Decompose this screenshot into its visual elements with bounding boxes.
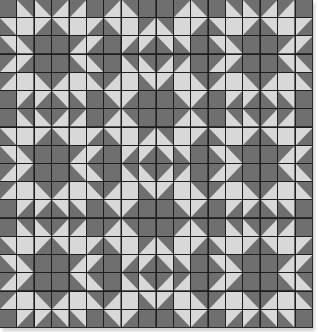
quilt-cell-diamond (157, 73, 173, 90)
quilt-cell-diamond (122, 164, 138, 181)
quilt-cell-diamond (122, 91, 138, 108)
quilt-cell-star (261, 91, 277, 108)
quilt-cell-star (243, 55, 259, 72)
quilt-cell-star (296, 91, 312, 108)
quilt-cell-star (70, 146, 86, 163)
quilt-cell-star (70, 273, 86, 290)
quilt-cell-diamond (139, 73, 155, 90)
quilt-cell-diamond (157, 146, 173, 163)
quilt-cell-diamond (139, 109, 155, 126)
quilt-cell-star (17, 91, 33, 108)
quilt-cell-star (35, 310, 51, 327)
quilt-cell-star (35, 109, 51, 126)
quilt-cell-diamond (157, 164, 173, 181)
quilt-cell-star (52, 55, 68, 72)
quilt-cell-star (243, 182, 259, 199)
quilt-cell-star (209, 146, 225, 163)
quilt-cell-star (261, 164, 277, 181)
quilt-cell-diamond (104, 146, 120, 163)
quilt-cell-star (35, 36, 51, 53)
quilt-cell-diamond (157, 310, 173, 327)
quilt-cell-diamond (104, 292, 120, 309)
quilt-cell-diamond (122, 310, 138, 327)
quilt-cell-diamond (104, 18, 120, 35)
quilt-cell-diamond (104, 219, 120, 236)
quilt-cell-star (17, 128, 33, 145)
quilt-cell-diamond (139, 55, 155, 72)
quilt-cell-diamond (122, 273, 138, 290)
quilt-cell-star (296, 237, 312, 254)
quilt-cell-star (17, 55, 33, 72)
quilt-cell-star (0, 146, 16, 163)
quilt-cell-star (35, 73, 51, 90)
quilt-cell-star (261, 18, 277, 35)
quilt-cell-diamond (191, 182, 207, 199)
quilt-cell-star (261, 219, 277, 236)
quilt-cell-star (17, 182, 33, 199)
quilt-cell-star (70, 219, 86, 236)
quilt-cell-diamond (139, 18, 155, 35)
quilt-cell-star (243, 219, 259, 236)
quilt-cell-star (87, 237, 103, 254)
quilt-cell-star (87, 310, 103, 327)
quilt-cell-diamond (191, 273, 207, 290)
quilt-cell-diamond (157, 237, 173, 254)
quilt-cell-diamond (157, 273, 173, 290)
quilt-cell-star (226, 255, 242, 272)
quilt-cell-diamond (174, 55, 190, 72)
quilt-cell-star (261, 237, 277, 254)
quilt-cell-star (278, 237, 294, 254)
quilt-cell-diamond (139, 128, 155, 145)
quilt-cell-diamond (139, 219, 155, 236)
quilt-cell-star (243, 146, 259, 163)
quilt-cell-star (70, 36, 86, 53)
quilt-cell-star (87, 109, 103, 126)
quilt-cell-star (296, 182, 312, 199)
quilt-cell-star (296, 292, 312, 309)
quilt-cell-diamond (139, 310, 155, 327)
quilt-cell-star (52, 219, 68, 236)
quilt-cell-star (35, 0, 51, 17)
quilt-cell-star (278, 73, 294, 90)
quilt-cell-diamond (139, 91, 155, 108)
quilt-cell-diamond (191, 73, 207, 90)
quilt-cell-star (35, 237, 51, 254)
quilt-cell-star (52, 164, 68, 181)
quilt-cell-diamond (191, 36, 207, 53)
quilt-cell-star (52, 310, 68, 327)
quilt-cell-diamond (122, 146, 138, 163)
quilt-cell-star (0, 164, 16, 181)
quilt-cell-star (17, 164, 33, 181)
quilt-cell-star (87, 182, 103, 199)
quilt-cell-star (226, 55, 242, 72)
quilt-cell-star (278, 55, 294, 72)
quilt-cell-star (209, 36, 225, 53)
quilt-cell-diamond (174, 0, 190, 17)
quilt-cell-diamond (139, 200, 155, 217)
quilt-cell-star (52, 292, 68, 309)
quilt-cell-diamond (104, 73, 120, 90)
quilt-cell-star (52, 255, 68, 272)
quilt-cell-star (261, 0, 277, 17)
quilt-cell-diamond (174, 36, 190, 53)
quilt-cell-diamond (122, 292, 138, 309)
quilt-cell-star (70, 128, 86, 145)
quilt-cell-star (0, 73, 16, 90)
quilt-cell-star (35, 128, 51, 145)
quilt-cell-star (296, 0, 312, 17)
quilt-cell-star (209, 310, 225, 327)
quilt-cell-diamond (157, 0, 173, 17)
quilt-cell-star (87, 164, 103, 181)
quilt-cell-star (243, 36, 259, 53)
quilt-cell-diamond (174, 128, 190, 145)
quilt-cell-diamond (174, 164, 190, 181)
quilt-cell-star (296, 310, 312, 327)
quilt-cell-diamond (174, 182, 190, 199)
quilt-cell-star (243, 109, 259, 126)
quilt-cell-diamond (174, 73, 190, 90)
quilt-cell-star (17, 237, 33, 254)
quilt-cell-diamond (139, 255, 155, 272)
quilt-cell-star (87, 200, 103, 217)
quilt-cell-star (243, 200, 259, 217)
quilt-cell-star (226, 18, 242, 35)
